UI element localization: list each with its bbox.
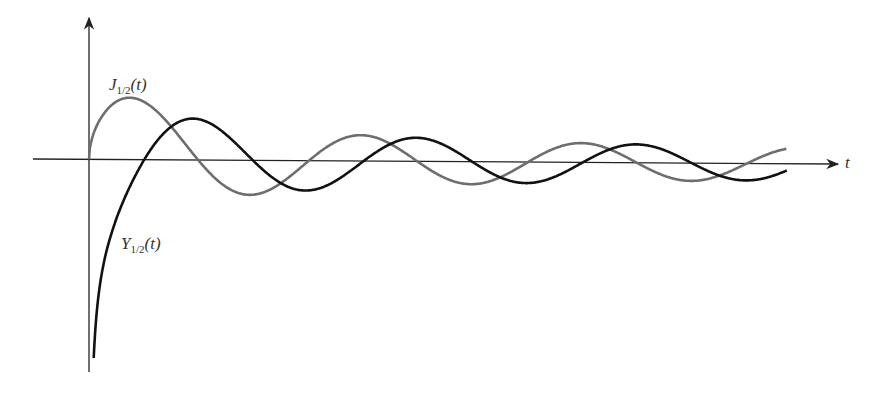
y-half-curve (94, 119, 787, 358)
j-half-curve (89, 98, 786, 195)
x-axis-label: t (845, 153, 850, 173)
chart-canvas (0, 0, 881, 393)
y-half-label: Y1/2(t) (121, 234, 161, 255)
j-half-label: J1/2(t) (109, 75, 147, 96)
x-axis (33, 159, 838, 164)
